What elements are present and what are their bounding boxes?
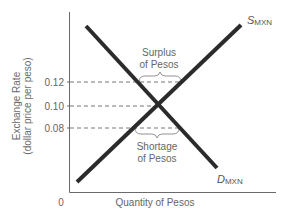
surplus-brace	[139, 72, 181, 82]
exchange-rate-chart: 0.12 0.10 0.08 0 Quantity of Pesos Excha…	[0, 0, 283, 218]
y-axis-label-line1: Exchange Rate	[11, 71, 22, 140]
shortage-label-line2: of Pesos	[138, 153, 177, 164]
origin-label: 0	[58, 197, 64, 208]
y-axis-label-line2: (dollar price per peso)	[22, 57, 33, 154]
shortage-brace	[135, 128, 179, 138]
tick-label-012: 0.12	[45, 77, 65, 88]
surplus-label-line1: Surplus	[142, 47, 176, 58]
tick-label-010: 0.10	[45, 101, 65, 112]
shortage-label-line1: Shortage	[137, 141, 178, 152]
tick-label-008: 0.08	[45, 123, 65, 134]
supply-label: SMXN	[247, 14, 272, 27]
x-axis-label: Quantity of Pesos	[116, 197, 195, 208]
surplus-label-line2: of Pesos	[140, 59, 179, 70]
demand-label: DMXN	[217, 173, 243, 186]
